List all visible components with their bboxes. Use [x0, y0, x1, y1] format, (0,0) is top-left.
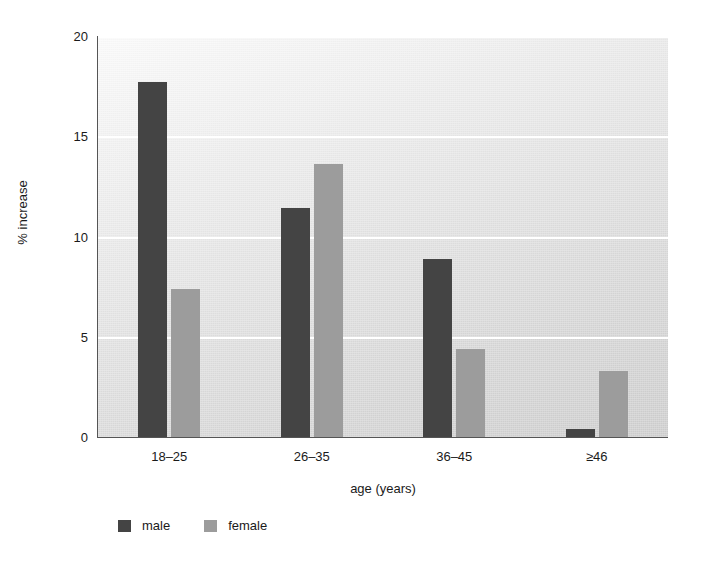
- y-tick-label-15: 15: [48, 130, 88, 143]
- legend-label: female: [228, 518, 267, 533]
- bar-chart-figure: 05101520 % increase 18–2526–3536–45≥46 a…: [0, 0, 711, 562]
- legend-swatch-male-icon: [118, 520, 131, 532]
- legend-label: male: [142, 518, 170, 533]
- y-axis-title: % increase: [15, 143, 30, 283]
- y-tick-label-20: 20: [48, 30, 88, 43]
- gridline-15: [98, 136, 668, 138]
- legend-swatch-female-icon: [204, 520, 217, 532]
- y-tick-label-5: 5: [48, 331, 88, 344]
- x-axis-title: age (years): [98, 481, 668, 496]
- bar-male-36–45: [423, 259, 452, 437]
- y-tick-label-10: 10: [48, 231, 88, 244]
- legend: malefemale: [118, 518, 267, 533]
- bar-male-≥46: [566, 429, 595, 437]
- legend-item-female[interactable]: female: [204, 518, 267, 533]
- x-axis-line: [97, 437, 668, 438]
- x-tick-label-4: ≥46: [532, 449, 662, 464]
- legend-item-male[interactable]: male: [118, 518, 170, 533]
- x-tick-label-1: 18–25: [104, 449, 234, 464]
- bar-female-≥46: [599, 371, 628, 437]
- y-axis-tick-labels: 05101520: [48, 0, 88, 562]
- plot-area: [98, 36, 668, 437]
- x-tick-label-2: 26–35: [247, 449, 377, 464]
- bar-male-26–35: [281, 208, 310, 437]
- x-tick-label-3: 36–45: [389, 449, 519, 464]
- y-tick-label-0: 0: [48, 431, 88, 444]
- bar-female-18–25: [171, 289, 200, 437]
- y-axis-line: [97, 36, 98, 438]
- gridline-10: [98, 237, 668, 239]
- bar-male-18–25: [138, 82, 167, 437]
- bar-female-36–45: [456, 349, 485, 437]
- bar-female-26–35: [314, 164, 343, 437]
- gridline-20: [98, 36, 668, 38]
